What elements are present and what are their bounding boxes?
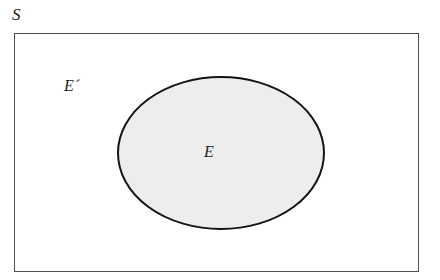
set-diagram-figure: S E´ E — [0, 0, 440, 280]
complement-set-label: E´ — [64, 78, 80, 94]
universal-set-label: S — [12, 6, 21, 23]
event-set-label: E — [204, 144, 214, 160]
venn-diagram-canvas — [0, 0, 440, 280]
event-set-ellipse — [118, 77, 324, 229]
